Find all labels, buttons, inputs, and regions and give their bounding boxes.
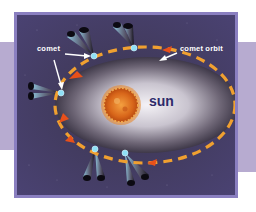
sun-glow (55, 57, 235, 153)
comet-orbit-label: comet orbit (180, 44, 223, 53)
right-decorative-band (236, 42, 256, 172)
diagram-panel: comet comet orbit sun (14, 12, 238, 198)
sun-label: sun (149, 93, 174, 109)
orbit-diagram (17, 15, 235, 195)
comet-label: comet (37, 44, 60, 53)
sun (101, 85, 141, 125)
